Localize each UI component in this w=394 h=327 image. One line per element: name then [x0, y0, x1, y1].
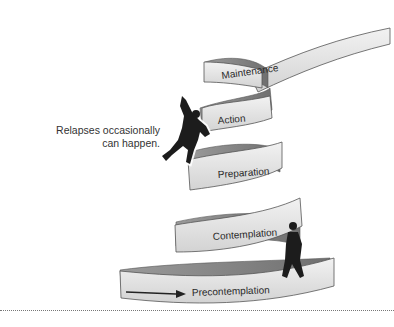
annotation-line-2: can happen. [20, 137, 160, 150]
stage-maintenance: Maintenance [204, 58, 279, 88]
stage-label: Preparation [217, 165, 269, 180]
ribbon-tail [250, 28, 390, 92]
spiral-diagram: Maintenance Action Preparation Contempla… [0, 0, 394, 327]
dotted-divider [0, 310, 394, 311]
stage-precontemplation: Precontemplation [120, 258, 334, 303]
relapse-annotation: Relapses occasionally can happen. [20, 124, 160, 150]
stage-action: Action [200, 88, 272, 132]
annotation-line-1: Relapses occasionally [20, 124, 160, 137]
stage-contemplation: Contemplation [175, 198, 302, 252]
stage-preparation: Preparation [188, 142, 282, 190]
